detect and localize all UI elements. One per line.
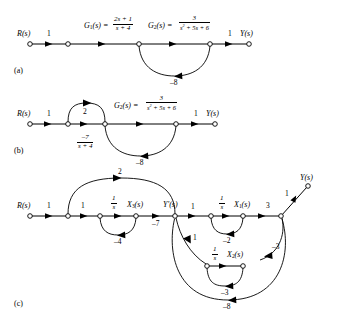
panel-c-gain-big-fb-label: –8 [223,303,231,311]
panel-c-self-loop-x1-label: –2 [223,237,231,245]
panel-c-gain-x3-to-y-label: –7 [152,220,160,228]
panel-c-gain-y-to-2-label: 1 [193,234,197,242]
panel-a-source-label: R(s) [17,30,30,38]
panel-c-gain-r1-label: 1 [47,202,51,210]
panel-c-x2-label: X2(s) [227,251,243,260]
panel-a-gain-out-label: 1 [228,30,232,38]
panel-c-integrator3-fraction: 1 s [111,195,117,211]
panel-c-integrator2-fraction: 1 s [212,246,218,262]
panel-b-source-label: R(s) [17,110,30,118]
panel-c-source-label: R(s) [17,202,30,210]
panel-a-g1-name: G1(s) = [84,22,108,31]
panel-c-arc-top-label: 2 [118,168,122,176]
panel-c-gain-x1-out-label: 3 [266,202,270,210]
panel-c-yprime-label: Y′(s) [163,201,178,209]
panel-c-x3-label: X3(s) [127,201,143,210]
panel-c-id: (c) [14,299,23,308]
panel-a-g1-fraction: 2s + 1 s + 4 [113,16,133,32]
panel-a-g1-numerator: 2s + 1 [113,16,133,24]
panel-a-g2-denominator: s2 + 5s + 6 [179,22,210,31]
panel-b-sink-label: Y(s) [206,110,219,118]
panel-c-integrator3-denominator: s [111,203,117,212]
panel-b-arc-gain-label: 2 [83,108,87,116]
panel-b-g2-name: G2(s) = [114,102,138,111]
panel-a-g2-name: G2(s) = [148,22,172,31]
figure-canvas: R(s) 1 G1(s) = 2s + 1 s + 4 G2(s) = 3 s2… [0,0,339,326]
panel-b-straight-gain-fraction: –7 s + 4 [77,134,93,150]
panel-c-gain-y-to-1-label: 1 [191,203,195,211]
panel-b-straight-numerator: –7 [77,134,93,142]
panel-b-g2-fraction: 3 s2 + 5s + 6 [146,95,177,111]
panel-a-graph [28,41,252,79]
panel-b-g2-numerator: 3 [146,95,177,102]
panel-c-self-loop-x2-label: –3 [221,289,229,297]
panel-c-gain-r2-label: 1 [81,202,85,210]
panel-a-feedback-label: –8 [170,79,178,87]
panel-c-x1-label: X1(s) [234,201,250,210]
panel-c-integrator1-denominator: s [219,203,225,212]
panel-b-straight-denominator: s + 4 [77,142,93,151]
panel-b-g2-denominator: s2 + 5s + 6 [146,102,177,111]
panel-c-graph [28,175,311,304]
panel-b-gain-in-label: 1 [47,110,51,118]
panel-c-gain-x2-fb-label: –3 [272,243,280,251]
panel-c-gain-out-label: 1 [285,190,289,198]
panel-c-integrator2-denominator: s [212,254,218,263]
panel-b-id: (b) [14,146,23,155]
panel-c-self-loop-x3-label: –4 [114,238,122,246]
panel-b-feedback-label: –8 [136,159,144,167]
panel-b-gain-out-label: 1 [194,110,198,118]
signal-flow-graph-svg [0,0,339,326]
panel-c-integrator1-numerator: 1 [219,195,225,203]
panel-c-integrator2-numerator: 1 [212,246,218,254]
panel-a-sink-label: Y(s) [240,30,253,38]
panel-a-gain-in-label: 1 [47,30,51,38]
panel-c-integrator3-numerator: 1 [111,195,117,203]
panel-a-g1-denominator: s + 4 [113,24,133,33]
panel-c-sink-label: Y(s) [300,174,313,182]
panel-c-integrator1-fraction: 1 s [219,195,225,211]
panel-a-id: (a) [14,66,23,75]
panel-a-g2-numerator: 3 [179,15,210,22]
panel-a-g2-fraction: 3 s2 + 5s + 6 [179,15,210,31]
